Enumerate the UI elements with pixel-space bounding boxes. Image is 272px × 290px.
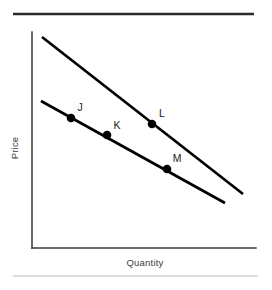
point-label-l: L bbox=[159, 107, 165, 119]
point-label-k: K bbox=[113, 119, 120, 131]
x-axis-label: Quantity bbox=[127, 257, 164, 268]
data-point-m[interactable] bbox=[163, 165, 172, 174]
data-point-l[interactable] bbox=[148, 120, 157, 129]
point-label-m: M bbox=[173, 152, 182, 164]
data-point-j[interactable] bbox=[67, 114, 76, 123]
demand-curve-chart: JKLM Price Quantity bbox=[0, 0, 272, 290]
point-label-j: J bbox=[77, 101, 82, 113]
chart-background bbox=[0, 0, 272, 290]
data-point-k[interactable] bbox=[103, 131, 112, 140]
economics-demand-curve-figure: JKLM Price Quantity bbox=[0, 0, 272, 290]
y-axis-label: Price bbox=[9, 137, 20, 160]
